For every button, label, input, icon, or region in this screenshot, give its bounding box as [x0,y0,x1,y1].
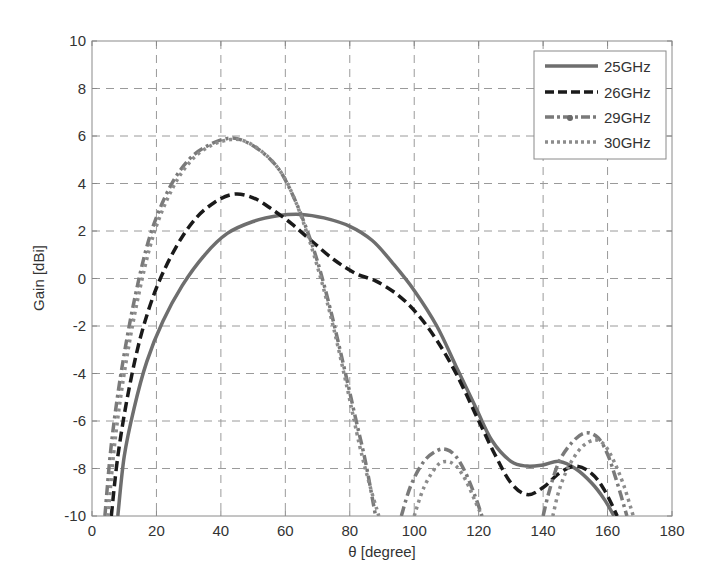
legend-label: 30GHz [604,134,651,151]
legend-label: 26GHz [604,84,651,101]
x-tick-label: 140 [531,522,556,539]
x-tick-label: 160 [595,522,620,539]
x-axis-label: θ [degree] [348,543,416,560]
x-tick-label: 100 [402,522,427,539]
y-tick-label: 8 [78,80,86,97]
legend-label: 25GHz [604,58,651,75]
y-axis-label: Gain [dBi] [30,245,47,311]
x-tick-label: 40 [213,522,230,539]
y-tick-label: 2 [78,222,86,239]
gain-chart: 020406080100120140160180 -10-8-6-4-20246… [0,0,720,581]
x-tick-label: 0 [88,522,96,539]
y-tick-label: -6 [73,412,86,429]
y-tick-labels: -10-8-6-4-20246810 [64,32,86,524]
series-30ghz [108,139,633,516]
x-tick-label: 120 [466,522,491,539]
y-tick-label: -10 [64,507,86,524]
legend-marker [567,115,573,121]
x-tick-label: 180 [659,522,684,539]
y-tick-label: 6 [78,127,86,144]
data-series [105,138,633,516]
x-tick-label: 60 [277,522,294,539]
legend: 25GHz 26GHz 29GHz 30GHz [534,51,666,159]
y-tick-label: -4 [73,365,86,382]
legend-label: 29GHz [604,109,651,126]
series-29ghz [105,138,627,516]
x-tick-label: 80 [341,522,358,539]
y-tick-label: 10 [69,32,86,49]
series-line [401,449,482,516]
x-tick-labels: 020406080100120140160180 [88,522,685,539]
x-tick-label: 20 [148,522,165,539]
y-tick-label: 4 [78,175,86,192]
y-tick-label: -2 [73,317,86,334]
y-tick-label: -8 [73,460,86,477]
y-tick-label: 0 [78,270,86,287]
